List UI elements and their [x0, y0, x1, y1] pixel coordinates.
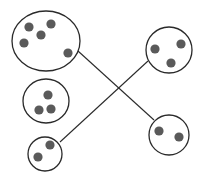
connector-left-top-to-right-bottom	[78, 51, 154, 120]
dot-icon	[43, 90, 52, 99]
group-left-bottom	[28, 137, 62, 171]
dot-icon	[24, 22, 33, 31]
dot-icon	[45, 140, 54, 149]
dot-icon	[150, 44, 159, 53]
dot-icon	[34, 105, 43, 114]
connector-left-bottom-to-right-top	[60, 61, 148, 142]
dot-icon	[36, 30, 45, 39]
group-right-bottom	[149, 115, 189, 155]
matching-diagram	[0, 0, 202, 182]
group-outline-left-bottom	[28, 137, 62, 171]
dot-icon	[166, 58, 175, 67]
connector-lines	[60, 51, 154, 142]
dot-icon	[154, 126, 163, 135]
group-outline-left-middle	[23, 79, 69, 123]
group-left-middle	[23, 79, 69, 123]
dot-icon	[19, 38, 28, 47]
dot-icon	[176, 39, 185, 48]
dot-icon	[33, 152, 42, 161]
dot-icon	[46, 19, 55, 28]
dot-groups	[12, 11, 192, 171]
group-left-top	[12, 11, 80, 71]
dot-icon	[174, 132, 183, 141]
group-right-top	[146, 27, 192, 73]
dot-icon	[46, 104, 55, 113]
dot-icon	[63, 48, 72, 57]
